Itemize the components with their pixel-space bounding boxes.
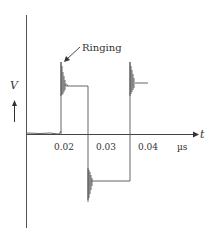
ringing-burst-3 bbox=[130, 62, 134, 96]
y-axis-label: V bbox=[10, 79, 19, 92]
ringing-burst-1 bbox=[61, 62, 68, 96]
x-axis-arrow-icon bbox=[193, 132, 199, 138]
x-tick-0-04: 0.04 bbox=[138, 142, 158, 152]
baseline-trace bbox=[27, 131, 61, 134]
ringing-annotation: Ringing bbox=[82, 42, 122, 53]
square-wave-trace bbox=[61, 62, 148, 200]
x-unit-label: µs bbox=[177, 142, 188, 152]
ringing-burst-2 bbox=[88, 168, 92, 202]
x-axis-label: t bbox=[200, 128, 205, 141]
ringing-pointer-arrow bbox=[67, 47, 80, 59]
x-tick-0-03: 0.03 bbox=[96, 142, 116, 152]
x-tick-0-02: 0.02 bbox=[54, 142, 74, 152]
waveform-diagram: t V Ringing 0.02 0.03 0.04 µs bbox=[0, 0, 213, 238]
v-arrow-head-icon bbox=[12, 100, 17, 106]
